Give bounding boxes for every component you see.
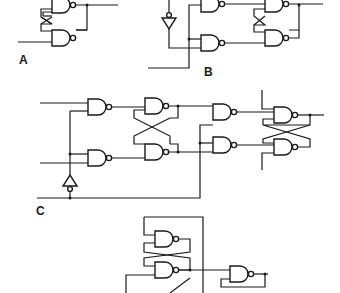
- nand-gate-icon: [155, 231, 179, 247]
- logic-circuit-diagram: A B: [0, 0, 340, 293]
- nand-gate-icon: [88, 99, 112, 115]
- circuit-d: [126, 217, 268, 293]
- circuit-b: B: [148, 0, 323, 79]
- nand-gate-icon: [52, 30, 76, 46]
- nand-gate-icon: [274, 139, 298, 155]
- nand-gate-icon: [145, 144, 169, 160]
- inverter-icon: [63, 175, 77, 186]
- circuit-c: C: [36, 90, 324, 218]
- nand-gate-icon: [201, 0, 225, 12]
- nand-gate-icon: [230, 266, 254, 282]
- circuit-label-b: B: [204, 65, 213, 79]
- circuit-a: A: [18, 0, 118, 67]
- nand-gate-icon: [145, 98, 169, 114]
- nand-gate-icon: [155, 262, 179, 278]
- nand-gate-icon: [201, 35, 225, 51]
- inverter-icon: [162, 18, 176, 29]
- nand-gate-icon: [265, 30, 289, 46]
- circuit-label-c: C: [36, 204, 45, 218]
- nand-gate-icon: [52, 0, 76, 13]
- nand-gate-icon: [213, 104, 237, 120]
- nand-gate-icon: [274, 107, 298, 123]
- circuit-label-a: A: [19, 53, 28, 67]
- nand-gate-icon: [88, 150, 112, 166]
- nand-gate-icon: [265, 0, 289, 12]
- nand-gate-icon: [213, 137, 237, 153]
